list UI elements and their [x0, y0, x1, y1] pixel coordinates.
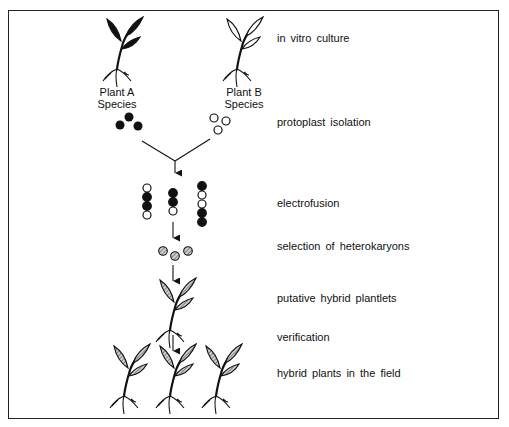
step-label-protoplast-isolation: protoplast isolation — [277, 116, 371, 128]
protoplasts-b-icon — [210, 114, 230, 134]
fusion-column-2 — [169, 189, 178, 215]
fusion-column-1 — [143, 184, 152, 219]
field-plant-1-icon — [110, 344, 150, 414]
step-label-putative-plantlets: putative hybrid plantlets — [277, 292, 397, 304]
plant-a-label-line1: Plant A — [82, 86, 152, 98]
step-label-selection: selection of heterokaryons — [277, 240, 409, 252]
plant-a-label-line2: Species — [82, 98, 152, 110]
plant-b-label-line2: Species — [209, 98, 279, 110]
plant-a-icon — [103, 17, 143, 87]
plant-b-label-line1: Plant B — [209, 86, 279, 98]
heterokaryons-icon — [159, 247, 193, 261]
plant-b-label: Plant B Species — [209, 86, 279, 110]
step-label-electrofusion: electrofusion — [277, 197, 339, 209]
step-label-field-plants: hybrid plants in the field — [277, 367, 401, 379]
field-plant-3-icon — [202, 344, 242, 414]
step-label-in-vitro-culture: in vitro culture — [277, 32, 349, 44]
plant-a-label: Plant A Species — [82, 86, 152, 110]
step-label-verification: verification — [277, 331, 330, 343]
plant-b-icon — [223, 17, 263, 87]
workflow-diagram — [0, 0, 509, 427]
fusion-column-3 — [198, 182, 207, 227]
merge-lines — [142, 139, 210, 173]
field-plant-2-icon — [156, 344, 196, 414]
hybrid-plantlet-icon — [156, 278, 196, 348]
protoplasts-a-icon — [116, 113, 143, 131]
